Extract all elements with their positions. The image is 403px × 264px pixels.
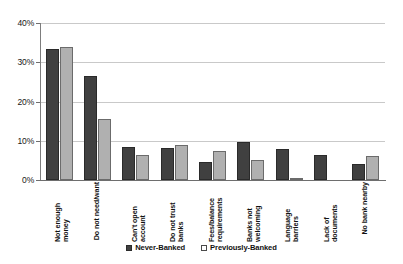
bar-group	[237, 23, 264, 180]
y-axis-tick-mark	[36, 102, 40, 103]
legend-item: Never-Banked	[126, 243, 185, 252]
legend-label: Previously-Banked	[210, 243, 277, 252]
y-axis-tick-mark	[36, 23, 40, 24]
y-axis-tick-label: 40%	[18, 18, 34, 28]
x-axis-tick-label: Do not need/want	[93, 182, 101, 240]
bar-never-banked	[314, 155, 327, 180]
legend-label: Never-Banked	[135, 243, 185, 252]
bar-never-banked	[84, 76, 97, 180]
x-axis-tick-label: No bank nearby	[361, 182, 369, 235]
x-axis-tick-label: Fees/balance requirements	[208, 182, 225, 242]
bar-group	[122, 23, 149, 180]
x-axis-tick-label: Not enough money	[54, 182, 71, 242]
bar-never-banked	[237, 142, 250, 180]
bar-never-banked	[46, 49, 59, 180]
y-axis-tick-label: 10%	[18, 136, 34, 146]
bar-previously-banked	[366, 156, 379, 180]
y-axis-labels: 0%10%20%30%40%	[0, 0, 34, 264]
bar-previously-banked	[136, 155, 149, 180]
legend-swatch-icon	[126, 245, 132, 251]
bar-previously-banked	[98, 119, 111, 180]
bar-previously-banked	[213, 151, 226, 180]
x-axis-tick-label: Do not trust banks	[169, 182, 186, 242]
y-axis-tick-mark	[36, 62, 40, 63]
bar-previously-banked	[175, 145, 188, 180]
x-axis-tick-label: Lack of documents	[323, 182, 340, 242]
bar-group	[84, 23, 111, 180]
x-axis-category-labels: Not enough moneyDo not need/wantCan't op…	[40, 182, 385, 242]
bar-never-banked	[276, 149, 289, 180]
chart-legend: Never-BankedPreviously-Banked	[0, 243, 403, 252]
y-axis-tick-label: 30%	[18, 57, 34, 67]
bar-group	[276, 23, 303, 180]
bar-never-banked	[199, 162, 212, 180]
bar-groups	[40, 23, 385, 180]
y-axis-tick-label: 20%	[18, 97, 34, 107]
x-axis-tick-label: Language barriers	[284, 182, 301, 242]
legend-swatch-icon	[201, 245, 207, 251]
bar-group	[314, 23, 341, 180]
bar-previously-banked	[251, 160, 264, 180]
bar-previously-banked	[290, 178, 303, 180]
bar-chart: 0%10%20%30%40% Not enough moneyDo not ne…	[0, 0, 403, 264]
bar-group	[161, 23, 188, 180]
y-axis-tick-mark	[36, 180, 40, 181]
x-axis-tick-label: Can't open account	[131, 182, 148, 242]
bar-never-banked	[122, 147, 135, 180]
bar-group	[199, 23, 226, 180]
bar-never-banked	[352, 164, 365, 180]
legend-item: Previously-Banked	[201, 243, 277, 252]
y-axis-tick-mark	[36, 141, 40, 142]
bar-group	[352, 23, 379, 180]
x-axis-line	[40, 180, 386, 181]
bar-group	[46, 23, 73, 180]
bar-previously-banked	[60, 47, 73, 180]
x-axis-tick-label: Banks not welcoming	[246, 182, 263, 242]
bar-never-banked	[161, 148, 174, 180]
y-axis-tick-label: 0%	[22, 175, 34, 185]
